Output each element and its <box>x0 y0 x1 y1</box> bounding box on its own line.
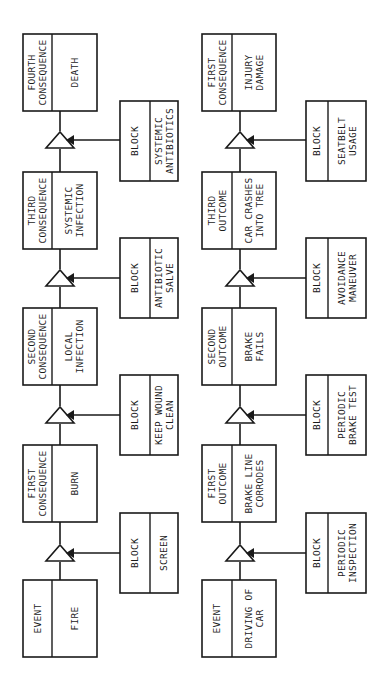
node-label: SYSTEMICINFECTION <box>63 183 85 237</box>
block-label: PERIODICBRAKE TEST <box>336 385 358 445</box>
node-label-line: DEATH <box>69 57 80 87</box>
fire-chain: EVENTFIREFIRSTCONSEQUENCEBURNSECONDCONSE… <box>23 34 178 657</box>
fire-node-0: EVENTFIRE <box>23 580 97 657</box>
node-role-label-line: OUTCOME <box>217 462 228 504</box>
node-role-label-line: CONSEQUENCE <box>217 39 228 105</box>
block-tag-label-line: BLOCK <box>129 538 140 568</box>
node-label: FIRE <box>69 606 80 630</box>
node-label-line: BRAKE LINE <box>243 453 254 513</box>
block-tag-label: BLOCK <box>129 263 140 293</box>
car-chain: EVENTDRIVING OFCARFIRSTOUTCOMEBRAKE LINE… <box>202 34 366 657</box>
block-label-line: USAGE <box>347 126 358 156</box>
node-label-line: CAR CRASHES <box>243 177 254 243</box>
node-role-label-line: SECOND <box>206 328 217 364</box>
node-role-label-line: THIRD <box>206 195 217 225</box>
fire-node-1: FIRSTCONSEQUENCEBURN <box>23 445 97 522</box>
event-consequence-diagram: EVENTFIREFIRSTCONSEQUENCEBURNSECONDCONSE… <box>0 0 390 690</box>
block-label-line: SYSTEMIC <box>153 117 164 165</box>
block-label: PERIODICINSPECTION <box>336 523 358 583</box>
car-node-2: SECONDOUTCOMEBRAKEFAILS <box>202 308 276 385</box>
node-label: BRAKEFAILS <box>243 331 265 361</box>
junction <box>226 249 306 308</box>
block-label-line: ANTIBIOTIC <box>153 248 164 308</box>
node-role-label-line: FIRST <box>206 57 217 87</box>
node-role-label: EVENT <box>211 603 222 633</box>
node-role-label-line: CONSEQUENCE <box>37 450 48 516</box>
block-tag-label: BLOCK <box>311 126 322 156</box>
fire-block-1: BLOCKKEEP WOUNDCLEAN <box>120 375 178 455</box>
car-node-4: FIRSTCONSEQUENCEINJURYDAMAGE <box>202 34 276 111</box>
junction <box>46 249 120 308</box>
block-label: AVOIDANCEMANEUVER <box>336 251 358 305</box>
block-label-line: ANTIBIOTICS <box>164 108 175 174</box>
node-role-label: FIRSTOUTCOME <box>206 462 228 504</box>
block-label-line: CLEAN <box>164 400 175 430</box>
node-role-label-line: CONSEQUENCE <box>37 39 48 105</box>
block-label-line: AVOIDANCE <box>336 251 347 305</box>
node-role-label-line: EVENT <box>32 603 43 633</box>
node-role-label: THIRDOUTCOME <box>206 189 228 231</box>
block-label-line: KEEP WOUND <box>153 385 164 445</box>
car-block-1: BLOCKPERIODICBRAKE TEST <box>306 375 366 455</box>
node-label: DEATH <box>69 57 80 87</box>
block-tag-label-line: BLOCK <box>129 126 140 156</box>
junction <box>46 111 120 172</box>
junction <box>46 522 120 580</box>
car-node-0: EVENTDRIVING OFCAR <box>202 580 276 657</box>
block-label-line: BRAKE TEST <box>347 385 358 445</box>
node-label-line: INFECTION <box>74 183 85 237</box>
car-node-1: FIRSTOUTCOMEBRAKE LINECORRODES <box>202 445 276 522</box>
block-tag-label: BLOCK <box>129 400 140 430</box>
node-label: BRAKE LINECORRODES <box>243 453 265 513</box>
block-label-line: PERIODIC <box>336 391 347 439</box>
node-label-line: SYSTEMIC <box>63 186 74 234</box>
junction <box>46 385 120 445</box>
node-label-line: INJURY <box>243 54 254 90</box>
node-label-line: FAILS <box>254 331 265 361</box>
node-label-line: INFECTION <box>74 319 85 373</box>
block-tag-label-line: BLOCK <box>311 400 322 430</box>
block-tag-label: BLOCK <box>311 538 322 568</box>
block-label-line: PERIODIC <box>336 529 347 577</box>
block-label-line: SCREEN <box>158 535 169 571</box>
node-label-line: CAR <box>254 609 265 627</box>
node-label: INJURYDAMAGE <box>243 54 265 90</box>
block-tag-label-line: BLOCK <box>311 126 322 156</box>
block-tag-label-line: BLOCK <box>311 263 322 293</box>
car-block-3: BLOCKSEATBELTUSAGE <box>306 101 366 181</box>
node-role-label-line: THIRD <box>26 195 37 225</box>
node-label: CAR CRASHESINTO TREE <box>243 177 265 243</box>
node-label-line: DAMAGE <box>254 54 265 90</box>
block-label: SCREEN <box>158 535 169 571</box>
block-label-line: INSPECTION <box>347 523 358 583</box>
node-role-label-line: EVENT <box>211 603 222 633</box>
node-label-line: INTO TREE <box>254 183 265 237</box>
node-role-label-line: FIRST <box>206 468 217 498</box>
fire-block-3: BLOCKSYSTEMICANTIBIOTICS <box>120 101 178 181</box>
node-label: BURN <box>69 471 80 495</box>
node-role-label-line: OUTCOME <box>217 325 228 367</box>
car-block-0: BLOCKPERIODICINSPECTION <box>306 513 366 593</box>
node-role-label-line: CONSEQUENCE <box>37 177 48 243</box>
car-node-3: THIRDOUTCOMECAR CRASHESINTO TREE <box>202 172 276 249</box>
block-label: SYSTEMICANTIBIOTICS <box>153 108 175 174</box>
block-tag-label: BLOCK <box>311 263 322 293</box>
node-label-line: LOCAL <box>63 331 74 361</box>
node-role-label: EVENT <box>32 603 43 633</box>
node-role-label-line: CONSEQUENCE <box>37 313 48 379</box>
block-tag-label: BLOCK <box>129 538 140 568</box>
block-tag-label-line: BLOCK <box>129 263 140 293</box>
block-label-line: SEATBELT <box>336 117 347 165</box>
fire-node-2: SECONDCONSEQUENCELOCALINFECTION <box>23 308 97 385</box>
node-role-label-line: FOURTH <box>26 54 37 90</box>
junction <box>226 522 306 580</box>
node-role-label-line: OUTCOME <box>217 189 228 231</box>
block-label-line: MANEUVER <box>347 254 358 302</box>
fire-block-0: BLOCKSCREEN <box>120 513 178 593</box>
block-label-line: SALVE <box>164 263 175 293</box>
junction <box>226 111 306 172</box>
block-tag-label: BLOCK <box>129 126 140 156</box>
node-label-line: CORRODES <box>254 459 265 507</box>
node-label-line: BURN <box>69 471 80 495</box>
node-label-line: BRAKE <box>243 331 254 361</box>
